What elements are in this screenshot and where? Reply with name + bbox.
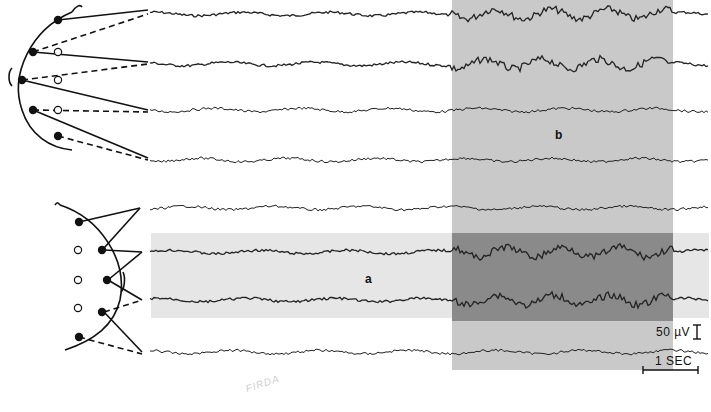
scale-bars — [0, 0, 711, 412]
eeg-figure: b a 50 µV 1 SEC FIRDA — [0, 0, 711, 412]
time-scale-label: 1 SEC — [655, 354, 692, 368]
